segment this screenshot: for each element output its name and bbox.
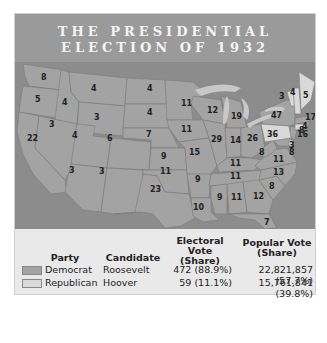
ev-ri: 4 bbox=[302, 122, 308, 131]
ev-nd: 4 bbox=[147, 84, 153, 93]
ev-al: 11 bbox=[231, 193, 243, 202]
ev-id: 4 bbox=[62, 98, 68, 107]
row-republican-candidate: Hoover bbox=[103, 277, 137, 288]
us-map: 8 5 22 4 3 4 3 4 6 3 3 4 4 7 9 11 23 11 … bbox=[15, 62, 315, 229]
header-party: Party bbox=[45, 253, 85, 263]
row-republican-party: Republican bbox=[45, 277, 97, 288]
ev-az: 3 bbox=[69, 166, 75, 175]
democrat-swatch bbox=[22, 266, 42, 275]
ev-sd: 4 bbox=[147, 108, 153, 117]
ev-ny: 47 bbox=[271, 111, 282, 120]
ev-ar: 9 bbox=[195, 175, 201, 184]
republican-swatch bbox=[22, 279, 42, 288]
ev-wv: 8 bbox=[259, 148, 265, 157]
header-candidate: Candidate bbox=[103, 253, 163, 263]
legend-table: Party Candidate Electoral Vote (Share) P… bbox=[15, 229, 315, 294]
title-line-1: THE PRESIDENTIAL bbox=[15, 24, 315, 40]
ev-wi: 12 bbox=[207, 106, 218, 115]
ev-nh: 4 bbox=[290, 88, 296, 97]
map-figure: THE PRESIDENTIAL ELECTION OF 1932 bbox=[14, 13, 316, 295]
ev-pa: 36 bbox=[267, 130, 279, 139]
ev-mo: 15 bbox=[189, 148, 201, 157]
ev-in: 14 bbox=[230, 136, 242, 145]
ev-tx: 23 bbox=[150, 185, 161, 194]
ev-wa: 8 bbox=[41, 73, 47, 82]
ev-ut: 4 bbox=[72, 131, 78, 140]
lake-superior bbox=[195, 84, 241, 96]
title-line-2: ELECTION OF 1932 bbox=[15, 40, 315, 56]
ev-wy: 3 bbox=[94, 113, 100, 122]
ev-nm: 3 bbox=[99, 167, 105, 176]
state-fl bbox=[229, 214, 277, 229]
row-republican-electoral: 59 (11.1%) bbox=[165, 277, 232, 288]
ev-oh: 26 bbox=[247, 134, 259, 143]
ev-vt: 3 bbox=[279, 92, 285, 101]
state-nd bbox=[125, 78, 167, 104]
ev-me: 5 bbox=[303, 91, 309, 100]
ev-or: 5 bbox=[35, 95, 41, 104]
ev-co: 6 bbox=[107, 134, 113, 143]
row-democrat-party: Democrat bbox=[45, 264, 92, 275]
map-title: THE PRESIDENTIAL ELECTION OF 1932 bbox=[15, 24, 315, 56]
row-democrat-electoral: 472 (88.9%) bbox=[165, 264, 232, 275]
row-democrat-candidate: Roosevelt bbox=[103, 264, 149, 275]
ev-sc: 8 bbox=[269, 182, 275, 191]
ev-nc: 13 bbox=[273, 168, 284, 177]
row-republican-popular: 15,761,841 (39.8%) bbox=[233, 277, 313, 299]
header-popular-vote: Popular Vote (Share) bbox=[241, 238, 313, 258]
us-map-svg: 8 5 22 4 3 4 3 4 6 3 3 4 4 7 9 11 23 11 … bbox=[15, 62, 315, 229]
ev-ca: 22 bbox=[27, 134, 38, 143]
ev-ga: 12 bbox=[253, 192, 264, 201]
ev-ks: 9 bbox=[161, 152, 167, 161]
state-sd bbox=[123, 104, 169, 128]
state-co bbox=[107, 138, 151, 170]
ev-ky: 11 bbox=[230, 159, 242, 168]
title-banner: THE PRESIDENTIAL ELECTION OF 1932 bbox=[15, 14, 315, 62]
ev-ok: 11 bbox=[160, 167, 172, 176]
header-electoral-vote: Electoral Vote (Share) bbox=[163, 236, 237, 266]
ev-tn: 11 bbox=[230, 172, 242, 181]
ev-fl: 7 bbox=[264, 218, 270, 227]
ev-mi: 19 bbox=[231, 112, 243, 121]
ev-mt: 4 bbox=[91, 84, 97, 93]
ev-va: 11 bbox=[273, 155, 285, 164]
ev-ia: 11 bbox=[181, 125, 193, 134]
ev-ms: 9 bbox=[217, 193, 223, 202]
ev-il: 29 bbox=[211, 135, 223, 144]
ev-mn: 11 bbox=[181, 99, 193, 108]
ev-ma: 17 bbox=[305, 113, 315, 122]
ev-de: 3 bbox=[289, 141, 295, 150]
ev-la: 10 bbox=[193, 203, 205, 212]
ev-nv: 3 bbox=[49, 120, 55, 129]
ev-ne: 7 bbox=[146, 130, 152, 139]
